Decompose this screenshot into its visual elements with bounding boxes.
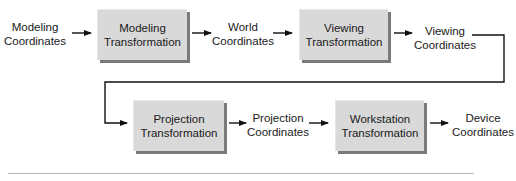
modeling-transformation-box: Modeling Transformation <box>97 9 187 60</box>
viewing-coordinates-label: Viewing Coordinates <box>412 24 478 52</box>
projection-coordinates-label: Projection Coordinates <box>245 111 311 139</box>
bottom-divider <box>8 173 474 174</box>
viewing-transformation-box: Viewing Transformation <box>299 9 388 60</box>
workstation-transformation-box: Workstation Transformation <box>335 100 424 151</box>
world-coordinates-label: World Coordinates <box>210 20 276 48</box>
modeling-coordinates-label: Modeling Coordinates <box>0 20 70 48</box>
device-coordinates-label: Device Coordinates <box>450 111 516 139</box>
projection-transformation-box: Projection Transformation <box>133 100 224 151</box>
